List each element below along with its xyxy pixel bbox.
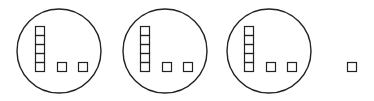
lone-square — [348, 63, 357, 72]
stack-square — [141, 27, 150, 36]
stack-square — [36, 63, 45, 72]
stack-square — [245, 45, 254, 54]
single-square — [288, 63, 297, 72]
group-2 — [123, 9, 207, 93]
stack-square — [141, 36, 150, 45]
stack-square — [141, 63, 150, 72]
single-square — [267, 63, 276, 72]
grouping-diagram — [0, 0, 374, 101]
single-square — [79, 63, 88, 72]
group-circle — [123, 9, 207, 93]
stack-square — [36, 36, 45, 45]
stack-square — [141, 54, 150, 63]
single-square — [58, 63, 67, 72]
group-circle — [227, 9, 311, 93]
stack-square — [245, 27, 254, 36]
stack-square — [245, 54, 254, 63]
stack-square — [245, 63, 254, 72]
stack-square — [36, 54, 45, 63]
stack-square — [36, 27, 45, 36]
stack-square — [36, 45, 45, 54]
group-circle — [17, 9, 101, 93]
stack-square — [141, 45, 150, 54]
single-square — [163, 63, 172, 72]
single-square — [184, 63, 193, 72]
group-1 — [17, 9, 101, 93]
group-3 — [227, 9, 311, 93]
stack-square — [245, 36, 254, 45]
